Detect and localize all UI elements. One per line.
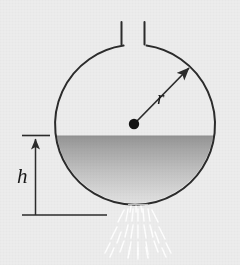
physics-figure: r h	[0, 0, 240, 265]
tank-neck	[122, 22, 145, 45]
radius-label: r	[157, 87, 165, 108]
tank-diagram-svg: r h	[0, 0, 240, 265]
center-dot	[129, 119, 139, 129]
height-label: h	[17, 164, 28, 188]
liquid-spray	[105, 206, 171, 259]
